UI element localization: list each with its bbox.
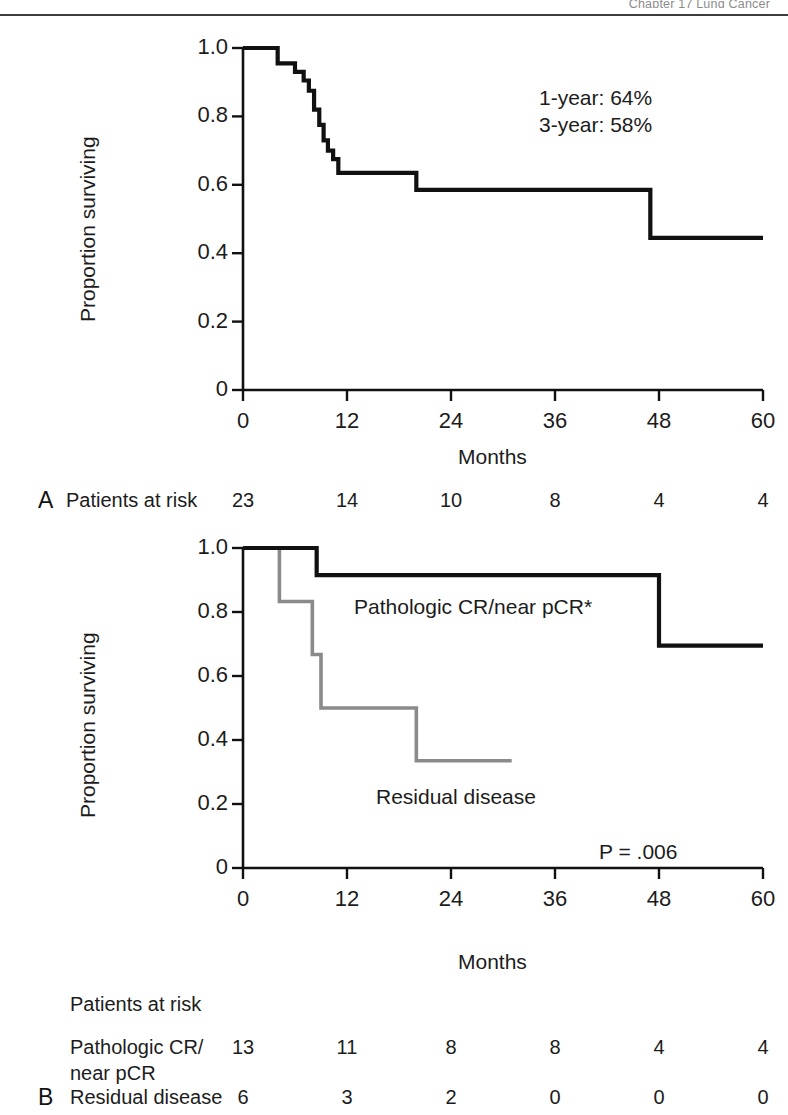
panel-b-risk-row1-label-line2: near pCR (70, 1062, 156, 1085)
panel-b-p-value: P = .006 (599, 838, 677, 865)
panel-b-risk-title: Patients at risk (70, 993, 201, 1016)
panel-a-y-tick-1.0: 1.0 (178, 34, 228, 60)
panel-b-y-tick-0.8: 0.8 (178, 598, 228, 624)
panel-a-x-tick-48: 48 (629, 408, 689, 434)
running-head: Chapter 17 Lung Cancer (629, 0, 770, 8)
panel-a-x-tick-60: 60 (733, 408, 788, 434)
panel-b-label-pathologic-cr: Pathologic CR/near pCR* (354, 595, 592, 619)
header-rule (0, 14, 788, 16)
panel-a-y-tick-0.4: 0.4 (178, 239, 228, 265)
panel-b-risk-row1-value-36: 8 (528, 1036, 582, 1059)
panel-a-y-axis-label: Proportion surviving (76, 136, 100, 322)
panel-b-plot (0, 528, 788, 888)
panel-b-y-tick-0.6: 0.6 (178, 662, 228, 688)
panel-a-risk-value-60: 4 (736, 489, 788, 512)
panel-a-x-axis-label: Months (458, 445, 527, 469)
panel-b-risk-row2-value-36: 0 (528, 1086, 582, 1109)
panel-a-y-tick-0.8: 0.8 (178, 102, 228, 128)
figure-page: Chapter 17 Lung Cancer Proportion surviv… (0, 0, 788, 1115)
panel-b-x-tick-36: 36 (525, 886, 585, 912)
panel-b-x-tick-24: 24 (421, 886, 481, 912)
panel-b-y-tick-0.2: 0.2 (178, 790, 228, 816)
panel-a-x-tick-24: 24 (421, 408, 481, 434)
panel-a-plot (0, 20, 788, 450)
panel-a-annotation-3-year: 3-year: 58% (539, 111, 652, 138)
panel-b-x-tick-48: 48 (629, 886, 689, 912)
panel-a-letter: A (38, 487, 53, 514)
panel-a-risk-label: Patients at risk (66, 489, 197, 512)
panel-b-risk-row2-value-12: 3 (320, 1086, 374, 1109)
panel-a-x-tick-0: 0 (213, 408, 273, 434)
panel-a-risk-value-12: 14 (320, 489, 374, 512)
panel-b-y-axis-label: Proportion surviving (76, 632, 100, 818)
panel-b-risk-row1-value-0: 13 (216, 1036, 270, 1059)
panel-b-risk-row1-value-24: 8 (424, 1036, 478, 1059)
panel-b-risk-row1-value-60: 4 (736, 1036, 788, 1059)
panel-a-y-tick-0.6: 0.6 (178, 171, 228, 197)
panel-b-x-tick-12: 12 (317, 886, 377, 912)
panel-a-annotation-1-year: 1-year: 64% (539, 84, 652, 111)
panel-a-x-tick-36: 36 (525, 408, 585, 434)
panel-b-risk-row2-value-0: 6 (216, 1086, 270, 1109)
panel-b-y-tick-0: 0 (178, 854, 228, 880)
panel-b-risk-row2-value-60: 0 (736, 1086, 788, 1109)
panel-b-x-axis-label: Months (458, 950, 527, 974)
panel-b-risk-row2-value-48: 0 (632, 1086, 686, 1109)
panel-a-y-tick-0: 0 (178, 376, 228, 402)
panel-a-risk-value-24: 10 (424, 489, 478, 512)
panel-b-risk-row1-label-line1: Pathologic CR/ (70, 1036, 203, 1059)
panel-b-y-tick-0.4: 0.4 (178, 726, 228, 752)
panel-a-risk-value-36: 8 (528, 489, 582, 512)
panel-a-risk-value-0: 23 (216, 489, 270, 512)
panel-b-risk-row2-value-24: 2 (424, 1086, 478, 1109)
panel-b-y-tick-1.0: 1.0 (178, 534, 228, 560)
panel-a-x-tick-12: 12 (317, 408, 377, 434)
panel-b-x-tick-0: 0 (213, 886, 273, 912)
panel-a-y-tick-0.2: 0.2 (178, 308, 228, 334)
panel-b-risk-row1-value-12: 11 (320, 1036, 374, 1059)
panel-b-x-tick-60: 60 (733, 886, 788, 912)
panel-b-risk-row1-value-48: 4 (632, 1036, 686, 1059)
panel-a-risk-value-48: 4 (632, 489, 686, 512)
panel-b-risk-row2-label: Residual disease (70, 1086, 222, 1109)
panel-b-label-residual-disease: Residual disease (376, 785, 536, 809)
panel-b-letter: B (38, 1084, 53, 1111)
